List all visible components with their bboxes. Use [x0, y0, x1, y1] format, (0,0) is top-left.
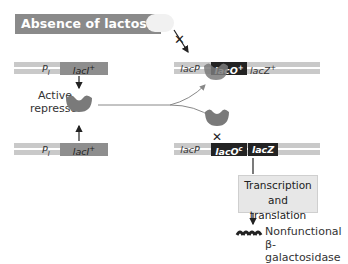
- bound-repressor-icon: [204, 64, 228, 81]
- unbound-repressor-icon: [205, 110, 229, 127]
- transcription-translation-box: Transcriptionand translation: [238, 175, 318, 213]
- repressor-icon: [66, 96, 92, 113]
- blocked-x-icon: ✕: [212, 130, 222, 144]
- nonfunctional-betagal-label: Nonfunctionalβ-galactosidase: [265, 225, 348, 264]
- blocked-x-icon: ✕: [174, 32, 185, 47]
- protein-icon: [237, 232, 261, 235]
